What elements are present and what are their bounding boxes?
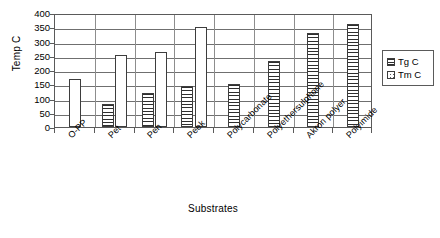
bar-tm [115,55,127,127]
bar-tm [195,27,207,127]
y-axis-tick-label: 50 [39,109,50,119]
y-axis-tick-label: 100 [34,95,50,105]
x-axis-category-labels: O-PPPetPenPeekPolycarbonatePolyethersulp… [54,133,384,208]
chart-legend: Tg CTm C [382,50,434,86]
bar-group [174,15,214,127]
bar-tg [347,24,359,127]
y-axis-tick-label: 400 [34,9,50,19]
bar-tg [102,104,114,127]
bar-tm [155,52,167,127]
y-axis-tick-label: 200 [34,66,50,76]
bar-chart: Temp C 400350300250200150100500 O-PPPetP… [0,0,440,238]
legend-label: Tm C [398,69,421,80]
legend-label: Tg C [398,56,419,67]
x-axis-title: Substrates [54,203,372,214]
bar-group [55,15,95,127]
y-axis-tick-label: 150 [34,81,50,91]
legend-item: Tm C [387,68,430,81]
bar-group [95,15,135,127]
y-axis-tick-label: 250 [34,52,50,62]
legend-item: Tg C [387,55,430,68]
y-axis-title: Temp C [11,24,22,84]
bar-group [135,15,175,127]
bars-layer [55,15,371,127]
legend-swatch-icon [387,71,395,79]
bar-tg [142,93,154,127]
legend-swatch-icon [387,58,395,66]
bar-tg [181,86,193,127]
y-axis-tick-labels: 400350300250200150100500 [22,8,50,130]
y-axis-tick-label: 300 [34,38,50,48]
y-axis-tick-label: 350 [34,24,50,34]
